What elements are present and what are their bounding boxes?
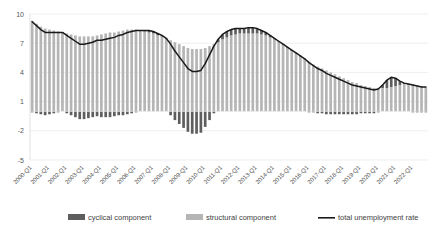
bar-structural [91, 36, 94, 111]
bar-cyclical [100, 111, 103, 117]
bar-structural [325, 70, 328, 111]
y-tick-label: 4 [20, 69, 24, 76]
bar-structural [78, 36, 81, 111]
bar-cyclical [182, 111, 185, 128]
bar-structural [113, 32, 116, 111]
bar-structural [342, 78, 345, 111]
bar-cyclical [104, 111, 107, 117]
bar-structural [156, 35, 159, 111]
bar-structural [213, 44, 216, 111]
y-tick-label: -2 [18, 127, 24, 134]
bar-cyclical [329, 111, 332, 114]
bar-cyclical [70, 111, 73, 115]
bar-structural [299, 56, 302, 111]
bar-structural [420, 86, 423, 111]
total-unemployment-rate-line [32, 22, 426, 90]
bar-cyclical [191, 111, 194, 133]
bar-structural [100, 34, 103, 111]
bar-structural [126, 30, 129, 112]
bar-structural [57, 32, 60, 112]
x-tick-label: 2022-Q1 [393, 164, 414, 185]
bar-structural [217, 42, 220, 111]
bar-structural [338, 76, 341, 111]
y-axis-ticks: 10741-2-5 [16, 11, 24, 164]
bar-cyclical [96, 111, 99, 116]
bar-cyclical [78, 111, 81, 119]
y-tick-label: 1 [20, 98, 24, 105]
bar-structural [122, 31, 125, 112]
bar-cyclical [204, 111, 207, 127]
bar-structural [303, 59, 306, 112]
bar-structural [386, 88, 389, 111]
bar-structural [52, 31, 55, 112]
bar-cyclical [351, 111, 354, 114]
bar-structural [200, 49, 203, 111]
bar-cyclical [109, 111, 112, 117]
bar-structural [377, 88, 380, 111]
bar-structural [230, 35, 233, 111]
bar-structural [316, 67, 319, 112]
bar-structural [247, 33, 250, 111]
bar-structural [403, 84, 406, 111]
bar-cyclical [355, 111, 358, 114]
bar-structural [117, 32, 120, 112]
bar-cyclical [126, 111, 129, 114]
bar-cyclical [74, 111, 77, 117]
bar-structural [312, 65, 315, 112]
bar-structural [360, 85, 363, 111]
bar-structural [139, 31, 142, 112]
unemployment-decomposition-chart: 10741-2-52000-Q12001-Q12002-Q12003-Q1200… [0, 0, 432, 239]
bar-structural [347, 80, 350, 111]
x-axis-ticks: 2000-Q12001-Q12002-Q12003-Q12004-Q12005-… [12, 164, 414, 185]
bar-cyclical [338, 111, 341, 114]
bar-structural [31, 21, 34, 112]
bar-structural [368, 87, 371, 111]
bar-structural [277, 42, 280, 111]
bar-structural [204, 48, 207, 111]
y-tick-label: 10 [16, 11, 24, 18]
structural-component-bars [31, 21, 427, 112]
bar-structural [135, 30, 138, 112]
bar-cyclical [187, 111, 190, 131]
bar-structural [152, 33, 155, 111]
bar-cyclical [91, 111, 94, 117]
legend-marker-bar [186, 214, 203, 220]
bar-structural [355, 83, 358, 111]
bar-structural [373, 88, 376, 111]
bar-structural [161, 36, 164, 111]
bar-structural [195, 49, 198, 111]
bar-structural [282, 44, 285, 111]
bar-structural [286, 47, 289, 111]
bar-structural [87, 36, 90, 111]
bar-structural [234, 34, 237, 111]
chart-canvas: 10741-2-52000-Q12001-Q12002-Q12003-Q1200… [0, 0, 432, 239]
bar-cyclical [48, 111, 51, 114]
bar-structural [165, 38, 168, 111]
y-tick-label: 7 [20, 40, 24, 47]
bar-structural [381, 88, 384, 111]
bar-cyclical [83, 111, 86, 119]
bar-structural [416, 85, 419, 111]
bar-structural [83, 36, 86, 111]
bar-cyclical [122, 111, 125, 115]
bar-structural [39, 27, 42, 112]
bar-structural [256, 33, 259, 111]
bar-structural [130, 30, 133, 112]
bar-structural [44, 29, 47, 112]
bar-structural [290, 50, 293, 111]
bar-cyclical [117, 111, 120, 115]
legend-label: structural component [206, 213, 277, 222]
bar-structural [329, 72, 332, 111]
bar-cyclical [44, 111, 47, 115]
bar-cyclical [325, 111, 328, 114]
bar-structural [104, 33, 107, 111]
bar-cyclical [347, 111, 350, 114]
bar-structural [295, 53, 298, 111]
bar-structural [191, 49, 194, 111]
bar-structural [35, 24, 38, 112]
legend-marker-bar [68, 214, 85, 220]
bar-structural [424, 87, 427, 111]
bar-cyclical [208, 111, 211, 120]
bar-structural [182, 46, 185, 111]
bar-structural [390, 87, 393, 111]
